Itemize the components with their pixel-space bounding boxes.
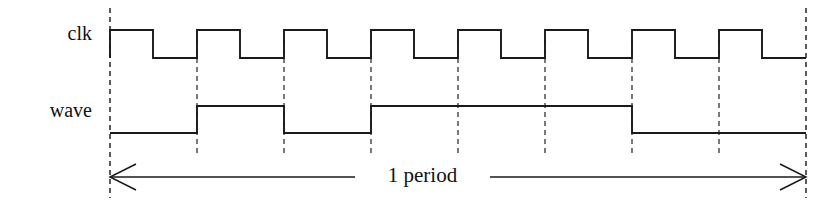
timing-diagram-figure: clk wave 1 period — [0, 0, 840, 210]
wave-waveform — [110, 106, 806, 133]
clk-waveform — [110, 30, 806, 58]
wave-trace — [110, 106, 806, 133]
period-annotation-label: 1 period — [359, 163, 486, 188]
clk-trace — [110, 30, 806, 58]
